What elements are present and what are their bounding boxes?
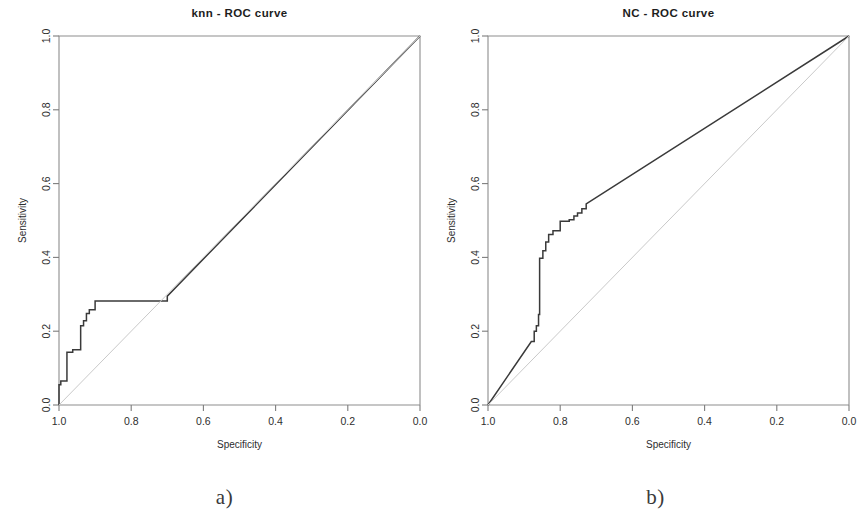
y-tick-label: 0.8 xyxy=(40,102,52,117)
y-tick-label: 0.0 xyxy=(40,398,52,413)
x-tick-label: 1.0 xyxy=(481,415,496,427)
chance-diagonal-line xyxy=(59,36,420,405)
knn-roc-chart: knn - ROC curve1.00.80.60.40.20.00.00.20… xyxy=(0,0,429,470)
roc-figure: knn - ROC curve1.00.80.60.40.20.00.00.20… xyxy=(0,0,859,524)
x-tick-label: 1.0 xyxy=(52,415,67,427)
y-tick-label: 0.6 xyxy=(40,176,52,191)
y-tick-label: 1.0 xyxy=(40,29,52,44)
y-tick-label: 0.6 xyxy=(469,176,481,191)
chart-title: knn - ROC curve xyxy=(191,7,287,19)
y-tick-label: 0.4 xyxy=(469,250,481,265)
x-tick-label: 0.8 xyxy=(124,415,139,427)
y-tick-label: 0.8 xyxy=(469,102,481,117)
y-axis-title: Sensitivity xyxy=(17,198,28,243)
chart-title: NC - ROC curve xyxy=(623,7,715,19)
x-tick-label: 0.6 xyxy=(196,415,211,427)
x-tick-label: 0.8 xyxy=(553,415,568,427)
x-tick-label: 0.2 xyxy=(340,415,355,427)
y-tick-label: 1.0 xyxy=(469,29,481,44)
y-tick-label: 0.4 xyxy=(40,250,52,265)
x-tick-label: 0.2 xyxy=(769,415,784,427)
y-axis-title: Sensitivity xyxy=(446,198,457,243)
y-tick-label: 0.0 xyxy=(469,398,481,413)
y-tick-label: 0.2 xyxy=(40,324,52,339)
x-tick-label: 0.6 xyxy=(625,415,640,427)
x-tick-label: 0.4 xyxy=(268,415,283,427)
x-axis-title: Specificity xyxy=(217,439,262,450)
x-axis-title: Specificity xyxy=(646,439,691,450)
panel-a-knn: knn - ROC curve1.00.80.60.40.20.00.00.20… xyxy=(0,0,429,524)
x-tick-label: 0.0 xyxy=(842,415,857,427)
chance-diagonal-line xyxy=(488,36,849,405)
figure-caption-a: a) xyxy=(10,485,439,510)
x-tick-label: 0.0 xyxy=(413,415,428,427)
x-tick-label: 0.4 xyxy=(697,415,712,427)
panel-b-nc: NC - ROC curve1.00.80.60.40.20.00.00.20.… xyxy=(429,0,858,524)
nc-roc-chart: NC - ROC curve1.00.80.60.40.20.00.00.20.… xyxy=(429,0,858,470)
y-tick-label: 0.2 xyxy=(469,324,481,339)
figure-caption-b: b) xyxy=(441,485,859,510)
